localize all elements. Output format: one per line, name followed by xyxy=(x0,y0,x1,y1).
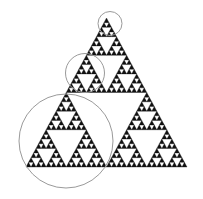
sierpinski-diagram xyxy=(0,0,203,199)
fractal-figure xyxy=(0,0,203,199)
